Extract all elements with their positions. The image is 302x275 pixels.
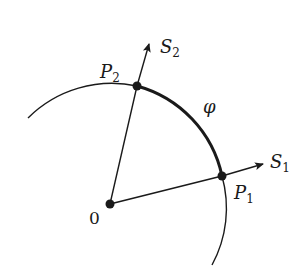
- point-p1-dot: [218, 172, 227, 181]
- circle-arc-lower: [212, 176, 226, 265]
- point-p2-dot: [133, 82, 142, 91]
- label-p1: P1: [233, 182, 254, 206]
- diagram-canvas: 0 P1 P2 S1 S2 φ: [0, 0, 302, 275]
- radius-op2: [110, 86, 137, 204]
- radius-op1: [110, 176, 222, 204]
- label-p2: P2: [99, 61, 120, 85]
- origin-dot: [106, 200, 115, 209]
- label-s2: S2: [160, 36, 180, 60]
- label-phi: φ: [203, 96, 216, 117]
- vector-s2: [137, 44, 149, 86]
- origin-label: 0: [89, 208, 100, 228]
- label-s1: S1: [270, 151, 290, 175]
- circle-arc: [28, 83, 137, 118]
- vector-s1: [222, 164, 263, 176]
